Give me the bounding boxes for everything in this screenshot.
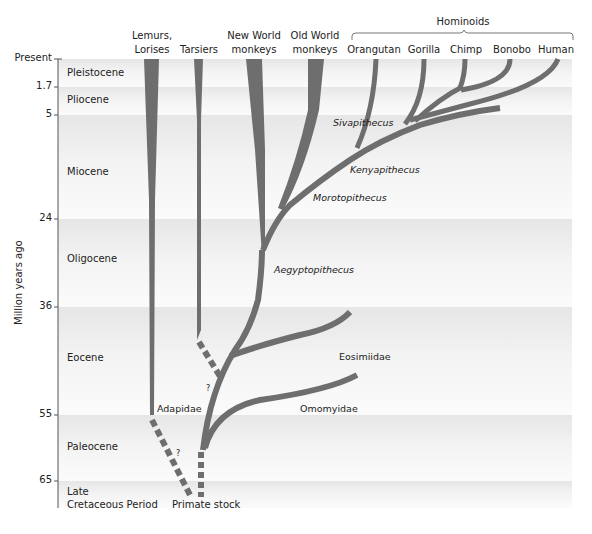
branch-adapidae-uncertain — [152, 420, 191, 497]
tick-24: 24 — [39, 212, 52, 223]
branch-catarrhine — [263, 108, 500, 250]
tick-5: 5 — [46, 108, 52, 119]
column-human: Human — [538, 43, 574, 57]
tick-1-7: 1.7 — [36, 80, 52, 91]
epoch-pliocene: Pliocene — [67, 94, 109, 105]
question-mark-tarsiers: ? — [206, 384, 210, 393]
y-axis-title: Million years ago — [13, 240, 24, 325]
column-lemurs-lorises: Lemurs, Lorises — [132, 29, 172, 57]
column-gorilla: Gorilla — [408, 43, 440, 57]
column-orangutan: Orangutan — [347, 43, 401, 57]
label-eosimiidae: Eosimiidae — [339, 351, 391, 362]
epoch-pleistocene: Pleistocene — [67, 67, 124, 78]
branch-new-world-monkeys — [246, 59, 265, 255]
label-adapidae: Adapidae — [157, 403, 202, 414]
epoch-miocene: Miocene — [67, 166, 109, 177]
column-old-world-monkeys: Old World monkeys — [291, 29, 340, 57]
epoch-oligocene: Oligocene — [67, 253, 117, 264]
column-new-world-monkeys: New World monkeys — [227, 29, 281, 57]
label-primate-stock: Primate stock — [172, 499, 240, 510]
branch-tarsiers — [194, 59, 203, 340]
branch-orangutan — [357, 59, 376, 148]
column-chimp: Chimp — [450, 43, 482, 57]
column-hominoids: Hominoids — [437, 15, 490, 29]
tick-36: 36 — [39, 300, 52, 311]
label-sivapithecus: Sivapithecus — [333, 117, 394, 128]
label-omomyidae: Omomyidae — [300, 403, 358, 414]
branch-bonobo — [461, 59, 510, 90]
branch-tarsiers-uncertain — [199, 342, 221, 378]
question-mark-adapidae: ? — [176, 449, 180, 458]
column-bonobo: Bonobo — [493, 43, 531, 57]
epoch-eocene: Eocene — [67, 352, 104, 363]
tick-55: 55 — [39, 408, 52, 419]
epoch-paleocene: Paleocene — [67, 441, 118, 452]
label-aegyptopithecus: Aegyptopithecus — [274, 264, 354, 275]
primate-phylogeny-diagram: Present 1.7 5 24 36 55 65 Million years … — [0, 0, 592, 534]
branch-lemurs — [144, 59, 159, 415]
hominoids-bracket — [352, 30, 573, 40]
tick-present: Present — [14, 52, 52, 63]
branch-chimp — [460, 59, 465, 88]
tick-65: 65 — [39, 474, 52, 485]
label-kenyapithecus: Kenyapithecus — [350, 164, 420, 175]
epoch-late: Late — [67, 486, 89, 497]
epoch-cretaceous: Cretaceous Period — [67, 499, 158, 510]
label-morotopithecus: Morotopithecus — [313, 192, 387, 203]
column-tarsiers: Tarsiers — [180, 43, 218, 57]
branch-old-world-monkeys — [278, 59, 324, 210]
